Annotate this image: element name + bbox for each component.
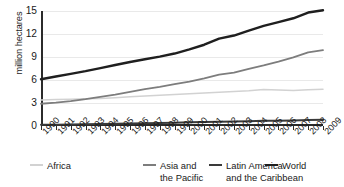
y-tick-label: 12 [26, 29, 37, 39]
legend-item[interactable]: Asia and the Pacific [143, 160, 203, 183]
chart-legend: AfricaAsia and the PacificLatin America … [0, 160, 327, 187]
y-tick-label: 15 [26, 6, 37, 16]
y-tick-label: 0 [31, 121, 37, 131]
plot-area: 03691215 [41, 11, 323, 126]
series-line [41, 10, 323, 79]
legend-color-swatch [143, 164, 156, 166]
legend-item[interactable]: World [265, 160, 306, 172]
legend-color-swatch [265, 164, 278, 166]
y-tick-label: 6 [31, 75, 37, 85]
y-tick-label: 3 [31, 98, 37, 108]
y-axis-title: million hectares [14, 0, 24, 98]
y-tick-label: 9 [31, 52, 37, 62]
legend-label: Africa [47, 160, 71, 172]
legend-color-swatch [30, 164, 43, 166]
legend-item[interactable]: Africa [30, 160, 71, 172]
legend-label: Asia and the Pacific [160, 160, 203, 183]
series-lines [41, 11, 323, 126]
series-line [41, 89, 323, 100]
legend-label: World [282, 160, 306, 172]
legend-color-swatch [209, 164, 222, 166]
series-line [41, 50, 323, 104]
x-axis-tick-labels: 1990199119921993199419951996199719981999… [41, 126, 323, 158]
